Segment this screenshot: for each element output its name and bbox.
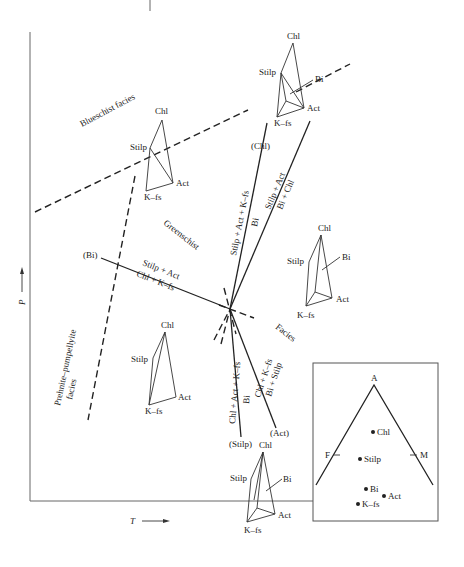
svg-text:K–fs: K–fs — [297, 310, 315, 320]
svg-text:Chl: Chl — [318, 223, 332, 233]
assemblage-diagram-prehnite: Chl Stilp Act K–fs — [131, 320, 191, 416]
svg-text:Bi: Bi — [342, 252, 351, 262]
reaction-stilp-upper: Chl + Act + K–fs — [227, 361, 242, 424]
petrogenetic-grid-diagram: P T Blueschist facies Greenschist Facies… — [0, 0, 464, 567]
svg-text:Bi: Bi — [370, 484, 379, 494]
assemblage-diagram-greenschist: Chl Stilp Bi Act K–fs — [287, 223, 351, 320]
svg-text:Act: Act — [176, 178, 189, 188]
svg-text:K–fs: K–fs — [145, 406, 163, 416]
svg-text:Chl: Chl — [155, 106, 169, 116]
svg-text:Chl: Chl — [287, 31, 301, 41]
svg-text:Chl: Chl — [259, 440, 273, 450]
svg-text:Stilp: Stilp — [364, 454, 382, 464]
afm-corner-f: F — [325, 450, 330, 460]
svg-text:Stilp: Stilp — [259, 67, 277, 77]
svg-text:Stilp: Stilp — [131, 354, 149, 364]
p-axis-label: P — [17, 267, 27, 306]
svg-text:P: P — [17, 299, 27, 306]
svg-text:T: T — [130, 516, 136, 526]
svg-text:K–fs: K–fs — [274, 118, 292, 128]
svg-text:Bi: Bi — [283, 474, 292, 484]
reaction-chl-lower: Bi — [249, 217, 261, 228]
chl-absent-label: (Chl) — [251, 141, 270, 151]
assemblage-diagram-bottom: Chl Stilp Bi Act K–fs — [230, 440, 292, 535]
bi-absent-label: (Bi) — [83, 250, 98, 260]
act-absent-label: (Act) — [270, 428, 289, 438]
svg-text:Act: Act — [307, 103, 320, 113]
stilp-absent-label: (Stilp) — [229, 439, 252, 449]
svg-text:K–fs: K–fs — [244, 525, 262, 535]
svg-text:Act: Act — [278, 510, 291, 520]
svg-text:K–fs: K–fs — [362, 499, 380, 509]
prehnite-pumpellyite-boundary — [88, 176, 135, 420]
invariant-dash-3 — [221, 309, 230, 344]
svg-text:Chl: Chl — [377, 427, 391, 437]
blueschist-facies-label: Blueschist facies — [78, 91, 137, 129]
svg-text:Bi: Bi — [315, 74, 324, 84]
svg-text:Chl: Chl — [161, 320, 175, 330]
svg-text:Stilp: Stilp — [130, 142, 148, 152]
svg-text:Act: Act — [388, 491, 401, 501]
svg-text:Act: Act — [336, 294, 349, 304]
afm-corner-m: M — [420, 450, 428, 460]
svg-text:Stilp: Stilp — [230, 473, 248, 483]
assemblage-diagram-top: Chl Stilp Bi Act K–fs — [259, 31, 324, 128]
reaction-stilp-lower: Bi — [241, 394, 252, 404]
greenschist-label: Greenschist — [162, 218, 202, 252]
assemblage-diagram-blueschist: Chl Stilp Act K–fs — [130, 106, 189, 202]
afm-apex-a: A — [371, 373, 378, 383]
invariant-dash-4 — [214, 311, 229, 340]
t-axis-label: T — [130, 516, 170, 526]
blueschist-boundary-lower — [35, 110, 248, 212]
svg-text:K–fs: K–fs — [144, 192, 162, 202]
facies-label: Facies — [274, 322, 299, 344]
svg-text:Stilp: Stilp — [287, 256, 305, 266]
svg-text:Act: Act — [178, 392, 191, 402]
afm-inset: A F M Chl Stilp Bi Act K–fs — [313, 363, 438, 521]
